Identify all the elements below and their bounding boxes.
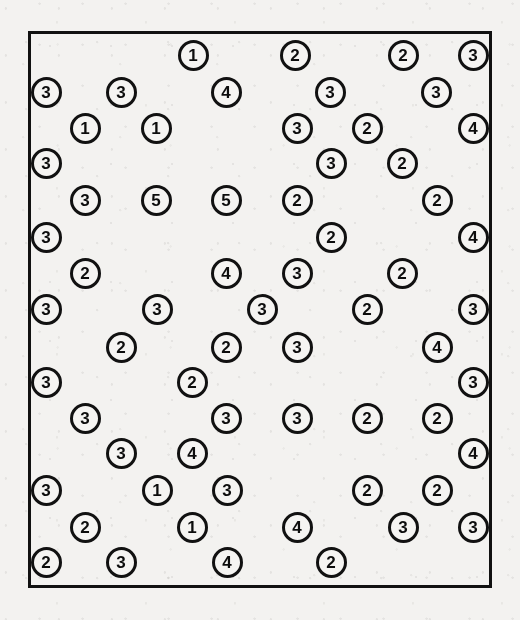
numbered-token[interactable]: 2 bbox=[352, 294, 383, 325]
numbered-token[interactable]: 2 bbox=[387, 258, 418, 289]
numbered-token[interactable]: 3 bbox=[31, 148, 62, 179]
numbered-token[interactable]: 2 bbox=[31, 547, 62, 578]
token-label: 4 bbox=[468, 444, 477, 461]
numbered-token[interactable]: 3 bbox=[282, 258, 313, 289]
numbered-token[interactable]: 5 bbox=[211, 185, 242, 216]
token-label: 1 bbox=[151, 119, 160, 136]
numbered-token[interactable]: 4 bbox=[282, 512, 313, 543]
numbered-token[interactable]: 3 bbox=[458, 367, 489, 398]
numbered-token[interactable]: 4 bbox=[458, 113, 489, 144]
numbered-token[interactable]: 3 bbox=[70, 403, 101, 434]
numbered-token[interactable]: 3 bbox=[282, 113, 313, 144]
token-label: 3 bbox=[80, 409, 89, 426]
token-label: 2 bbox=[432, 409, 441, 426]
token-label: 2 bbox=[326, 228, 335, 245]
numbered-token[interactable]: 3 bbox=[458, 512, 489, 543]
numbered-token[interactable]: 3 bbox=[142, 294, 173, 325]
numbered-token[interactable]: 2 bbox=[177, 367, 208, 398]
token-label: 1 bbox=[80, 119, 89, 136]
numbered-token[interactable]: 4 bbox=[211, 258, 242, 289]
numbered-token[interactable]: 1 bbox=[177, 512, 208, 543]
numbered-token[interactable]: 3 bbox=[282, 403, 313, 434]
numbered-token[interactable]: 3 bbox=[31, 222, 62, 253]
numbered-token[interactable]: 1 bbox=[70, 113, 101, 144]
token-label: 4 bbox=[292, 518, 301, 535]
numbered-token[interactable]: 3 bbox=[31, 77, 62, 108]
numbered-token[interactable]: 3 bbox=[31, 294, 62, 325]
numbered-token[interactable]: 2 bbox=[280, 40, 311, 71]
token-label: 2 bbox=[397, 154, 406, 171]
numbered-token[interactable]: 4 bbox=[212, 547, 243, 578]
numbered-token[interactable]: 3 bbox=[212, 475, 243, 506]
token-label: 3 bbox=[292, 338, 301, 355]
numbered-token[interactable]: 3 bbox=[211, 403, 242, 434]
numbered-token[interactable]: 2 bbox=[211, 332, 242, 363]
token-label: 3 bbox=[468, 373, 477, 390]
token-label: 2 bbox=[326, 553, 335, 570]
token-label: 1 bbox=[188, 46, 197, 63]
token-label: 2 bbox=[397, 264, 406, 281]
numbered-token[interactable]: 1 bbox=[141, 113, 172, 144]
token-label: 3 bbox=[292, 119, 301, 136]
numbered-token[interactable]: 3 bbox=[421, 77, 452, 108]
token-label: 3 bbox=[325, 83, 334, 100]
token-label: 4 bbox=[222, 553, 231, 570]
numbered-token[interactable]: 2 bbox=[316, 222, 347, 253]
token-label: 3 bbox=[292, 264, 301, 281]
numbered-token[interactable]: 3 bbox=[106, 77, 137, 108]
numbered-token[interactable]: 3 bbox=[31, 367, 62, 398]
token-label: 3 bbox=[116, 83, 125, 100]
token-label: 2 bbox=[398, 46, 407, 63]
token-label: 3 bbox=[222, 481, 231, 498]
numbered-token[interactable]: 3 bbox=[247, 294, 278, 325]
token-label: 3 bbox=[41, 373, 50, 390]
numbered-token[interactable]: 4 bbox=[422, 332, 453, 363]
numbered-token[interactable]: 1 bbox=[178, 40, 209, 71]
numbered-token[interactable]: 2 bbox=[387, 148, 418, 179]
numbered-token[interactable]: 2 bbox=[422, 403, 453, 434]
token-label: 3 bbox=[41, 228, 50, 245]
numbered-token[interactable]: 3 bbox=[106, 438, 137, 469]
numbered-token[interactable]: 3 bbox=[388, 512, 419, 543]
numbered-token[interactable]: 3 bbox=[458, 40, 489, 71]
numbered-token[interactable]: 4 bbox=[458, 438, 489, 469]
token-label: 3 bbox=[468, 518, 477, 535]
token-label: 2 bbox=[80, 518, 89, 535]
numbered-token[interactable]: 2 bbox=[388, 40, 419, 71]
numbered-token[interactable]: 3 bbox=[31, 475, 62, 506]
numbered-token[interactable]: 2 bbox=[106, 332, 137, 363]
token-label: 3 bbox=[221, 409, 230, 426]
numbered-token[interactable]: 3 bbox=[316, 148, 347, 179]
numbered-token[interactable]: 3 bbox=[282, 332, 313, 363]
numbered-token[interactable]: 3 bbox=[70, 185, 101, 216]
numbered-token[interactable]: 2 bbox=[70, 512, 101, 543]
token-label: 4 bbox=[187, 444, 196, 461]
numbered-token[interactable]: 5 bbox=[141, 185, 172, 216]
numbered-token[interactable]: 2 bbox=[422, 185, 453, 216]
token-label: 4 bbox=[221, 83, 230, 100]
token-label: 2 bbox=[362, 481, 371, 498]
token-label: 3 bbox=[116, 444, 125, 461]
numbered-token[interactable]: 2 bbox=[352, 403, 383, 434]
numbered-token[interactable]: 2 bbox=[422, 475, 453, 506]
numbered-token[interactable]: 2 bbox=[70, 258, 101, 289]
numbered-token[interactable]: 1 bbox=[142, 475, 173, 506]
numbered-token[interactable]: 4 bbox=[177, 438, 208, 469]
numbered-token[interactable]: 2 bbox=[352, 113, 383, 144]
numbered-token[interactable]: 2 bbox=[352, 475, 383, 506]
token-label: 2 bbox=[432, 191, 441, 208]
numbered-token[interactable]: 3 bbox=[106, 547, 137, 578]
numbered-token[interactable]: 3 bbox=[315, 77, 346, 108]
token-label: 5 bbox=[221, 191, 230, 208]
numbered-token[interactable]: 2 bbox=[282, 185, 313, 216]
numbered-token[interactable]: 4 bbox=[458, 222, 489, 253]
token-label: 2 bbox=[432, 481, 441, 498]
token-label: 3 bbox=[431, 83, 440, 100]
token-label: 4 bbox=[468, 119, 477, 136]
numbered-token[interactable]: 2 bbox=[316, 547, 347, 578]
numbered-token[interactable]: 3 bbox=[458, 294, 489, 325]
token-label: 3 bbox=[468, 46, 477, 63]
token-label: 3 bbox=[41, 481, 50, 498]
token-label: 1 bbox=[187, 518, 196, 535]
numbered-token[interactable]: 4 bbox=[211, 77, 242, 108]
